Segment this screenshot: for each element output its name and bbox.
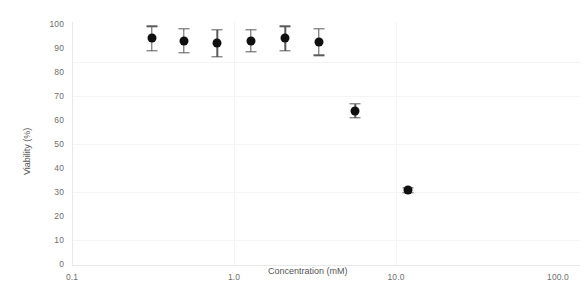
gridline xyxy=(73,62,580,63)
vgridline xyxy=(234,22,235,265)
error-bar-cap xyxy=(350,117,361,118)
x-tick-label: 10.0 xyxy=(388,272,405,282)
x-axis-title: Concentration (mM) xyxy=(268,266,348,276)
y-axis-title: Viability (%) xyxy=(22,128,32,175)
data-point xyxy=(281,34,290,43)
error-bar-cap xyxy=(350,103,361,104)
y-tick-label: 30 xyxy=(20,187,64,197)
error-bar-cap xyxy=(212,29,223,30)
error-bar-cap xyxy=(245,29,256,30)
data-point xyxy=(351,106,360,115)
gridline xyxy=(73,240,580,241)
y-tick-label: 90 xyxy=(20,43,64,53)
x-tick-label: 1.0 xyxy=(228,272,240,282)
error-bar-cap xyxy=(212,56,223,57)
error-bar-cap xyxy=(245,51,256,52)
x-tick-label: 0.1 xyxy=(66,272,78,282)
y-tick-label: 20 xyxy=(20,211,64,221)
error-bar-cap xyxy=(280,26,291,27)
y-tick-label: 0 xyxy=(20,259,64,269)
y-tick-label: 80 xyxy=(20,67,64,77)
y-tick-label: 70 xyxy=(20,91,64,101)
y-tick-label: 100 xyxy=(20,19,64,29)
gridline xyxy=(73,96,580,97)
gridline xyxy=(73,144,580,145)
error-bar-cap xyxy=(314,28,325,29)
error-bar-cap xyxy=(146,26,157,27)
vgridline xyxy=(396,22,397,265)
data-point xyxy=(315,38,324,47)
error-bar-cap xyxy=(146,50,157,51)
error-bar-cap xyxy=(314,55,325,56)
y-tick-label: 60 xyxy=(20,115,64,125)
x-tick-label: 100.0 xyxy=(547,272,569,282)
error-bar-cap xyxy=(280,50,291,51)
data-point xyxy=(403,186,412,195)
gridline xyxy=(73,192,580,193)
data-point xyxy=(179,36,188,45)
error-bar-cap xyxy=(178,28,189,29)
data-point xyxy=(213,39,222,48)
data-point xyxy=(147,34,156,43)
viability-concentration-chart: 100 90 80 70 60 50 40 30 20 10 0 0.1 1.0… xyxy=(0,0,587,298)
error-bar-cap xyxy=(178,52,189,53)
y-tick-label: 10 xyxy=(20,235,64,245)
data-point xyxy=(246,36,255,45)
